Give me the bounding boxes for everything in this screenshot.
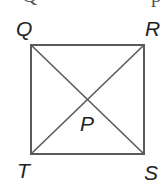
clipped-text-left: Q: [22, 0, 37, 7]
clipped-text-right: p: [151, 0, 162, 7]
label-p: P: [80, 112, 94, 135]
label-t: T: [17, 159, 32, 182]
label-s: S: [144, 161, 158, 184]
square-diagram: Q p Q R T S P: [0, 0, 162, 186]
label-r: R: [145, 17, 160, 40]
label-q: Q: [16, 17, 32, 40]
